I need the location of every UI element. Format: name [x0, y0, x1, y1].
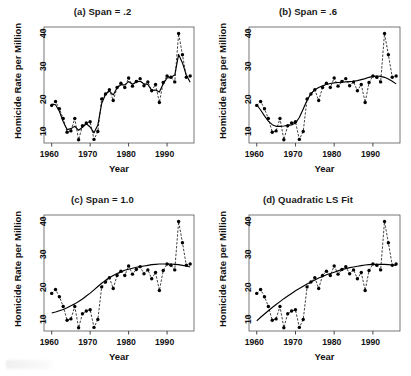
- panel-b-plot: [205, 0, 411, 188]
- data-point: [352, 268, 355, 271]
- observed-series-line: [52, 222, 190, 328]
- panel-d: (d) Quadratic LS Fit10203040196019701980…: [205, 188, 411, 376]
- x-axis-tick-label: 1980: [322, 337, 341, 347]
- data-point: [54, 288, 57, 291]
- data-point: [92, 138, 95, 141]
- data-point: [65, 319, 68, 322]
- y-axis-tick-label: 10: [243, 127, 253, 137]
- data-point: [146, 268, 149, 271]
- data-point: [332, 264, 335, 267]
- data-point: [348, 84, 351, 87]
- data-point: [77, 138, 80, 141]
- data-point: [298, 326, 301, 329]
- panel-a: (a) Span = .2102030401960197019801990Hom…: [0, 0, 205, 188]
- data-point: [367, 81, 370, 84]
- y-axis-tick-label: 20: [243, 94, 253, 104]
- data-point: [50, 292, 53, 295]
- data-point: [325, 270, 328, 273]
- y-axis-tick-label: 40: [38, 217, 48, 227]
- data-point: [263, 295, 266, 298]
- data-point: [367, 269, 370, 272]
- data-point: [69, 129, 72, 132]
- data-point: [317, 99, 320, 102]
- data-point: [259, 100, 262, 103]
- data-point: [290, 309, 293, 312]
- x-axis-tick-label: 1990: [361, 337, 380, 347]
- data-point: [177, 32, 180, 35]
- data-point: [274, 129, 277, 132]
- data-point: [188, 262, 191, 265]
- y-axis-label: Homicide Rate per Million: [12, 23, 23, 139]
- panel-a-plot: [0, 0, 205, 188]
- data-point: [356, 89, 359, 92]
- data-point: [329, 86, 332, 89]
- y-axis-tick-label: 10: [243, 315, 253, 325]
- data-point: [158, 289, 161, 292]
- data-point: [383, 220, 386, 223]
- data-point: [181, 53, 184, 56]
- data-point: [363, 101, 366, 104]
- y-axis-label: Homicide Rate per Million: [217, 23, 228, 139]
- data-point: [387, 53, 390, 56]
- panel-d-plot: [205, 188, 411, 376]
- data-point: [100, 285, 103, 288]
- x-axis-tick-label: 1970: [78, 337, 97, 347]
- x-axis-label: Year: [249, 351, 400, 362]
- data-point: [58, 295, 61, 298]
- data-point: [127, 264, 130, 267]
- data-point: [332, 76, 335, 79]
- x-axis-tick-label: 1990: [361, 149, 380, 159]
- data-point: [146, 80, 149, 83]
- data-point: [138, 77, 141, 80]
- x-axis-tick-label: 1970: [78, 149, 97, 159]
- data-point: [379, 268, 382, 271]
- data-point: [271, 319, 274, 322]
- panel-c: (c) Span = 1.0102030401960197019801990Ho…: [0, 188, 205, 376]
- y-axis-tick-label: 30: [38, 249, 48, 259]
- data-point: [131, 272, 134, 275]
- data-point: [158, 101, 161, 104]
- data-point: [282, 138, 285, 141]
- data-point: [278, 305, 281, 308]
- data-point: [142, 272, 145, 275]
- data-point: [286, 312, 289, 315]
- data-point: [181, 241, 184, 244]
- data-point: [65, 131, 68, 134]
- x-axis-tick-label: 1980: [117, 149, 136, 159]
- data-point: [267, 305, 270, 308]
- data-point: [69, 317, 72, 320]
- x-axis-tick-label: 1960: [245, 337, 264, 347]
- data-point: [278, 117, 281, 120]
- data-point: [363, 289, 366, 292]
- data-point: [317, 287, 320, 290]
- data-point: [294, 308, 297, 311]
- smooth-fit-curve: [52, 54, 190, 132]
- x-axis-label: Year: [249, 163, 400, 174]
- data-point: [344, 77, 347, 80]
- x-axis-tick-label: 1970: [283, 337, 302, 347]
- y-axis-label: Homicide Rate per Million: [12, 211, 23, 327]
- data-point: [154, 83, 157, 86]
- data-point: [271, 131, 274, 134]
- x-axis-tick-label: 1960: [40, 149, 59, 159]
- y-axis-tick-label: 20: [38, 94, 48, 104]
- y-axis-tick-label: 30: [38, 61, 48, 71]
- data-point: [394, 74, 397, 77]
- data-point: [173, 80, 176, 83]
- data-point: [150, 277, 153, 280]
- x-axis-tick-label: 1980: [117, 337, 136, 347]
- data-point: [88, 308, 91, 311]
- data-point: [379, 80, 382, 83]
- data-point: [274, 317, 277, 320]
- data-point: [81, 312, 84, 315]
- data-point: [177, 220, 180, 223]
- data-point: [62, 305, 65, 308]
- data-point: [302, 318, 305, 321]
- data-point: [302, 130, 305, 133]
- data-point: [348, 272, 351, 275]
- y-axis-tick-label: 20: [38, 282, 48, 292]
- y-axis-tick-label: 30: [243, 249, 253, 259]
- data-point: [96, 318, 99, 321]
- data-point: [263, 107, 266, 110]
- data-point: [96, 130, 99, 133]
